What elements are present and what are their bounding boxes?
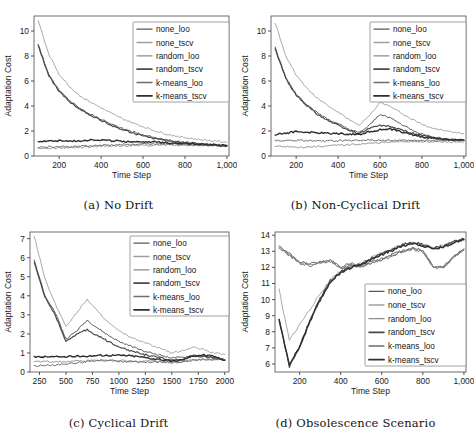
legend-label-none_tscv: none_tscv (393, 39, 431, 48)
y-tick-label: 13 (261, 246, 271, 256)
legend-label-k-means_tscv: k-means_tscv (393, 92, 444, 101)
y-tick-label: 10 (257, 26, 267, 36)
y-tick-label: 8 (265, 327, 270, 337)
plot-area-c: 0123456725050075010001250150017502000non… (0, 218, 237, 408)
series-line-random_loo (275, 141, 464, 148)
y-tick-label: 11 (261, 278, 270, 288)
legend-label-random_tscv: random_tscv (393, 65, 441, 74)
y-tick-label: 2 (24, 126, 29, 136)
legend-label-k-means_tscv: k-means_tscv (156, 92, 207, 101)
y-tick-label: 6 (20, 253, 25, 263)
x-tick-label: 1,000 (216, 160, 237, 170)
x-tick-label: 600 (375, 376, 389, 386)
figure-grid: 02468102004006008001,000none_loonone_tsc… (0, 0, 474, 436)
panel-caption-a: (a) No Drift (0, 198, 237, 212)
y-tick-label: 4 (20, 291, 25, 301)
x-tick-label: 200 (289, 160, 303, 170)
legend-label-none_tscv: none_tscv (153, 253, 191, 262)
y-tick-label: 10 (261, 295, 271, 305)
y-tick-label: 0 (24, 151, 29, 161)
legend-label-random_tscv: random_tscv (156, 65, 204, 74)
plot-area-a: 02468102004006008001,000none_loonone_tsc… (0, 0, 237, 190)
legend-label-k-means_tscv: k-means_tscv (388, 356, 439, 365)
y-tick-label: 2 (20, 329, 25, 339)
panel-caption-b: (b) Non-Cyclical Drift (237, 198, 474, 212)
x-tick-label: 1750 (189, 376, 208, 386)
x-axis-label: Time Step (271, 170, 466, 180)
y-axis-label: Adaptation Cost (3, 271, 13, 332)
y-tick-label: 2 (261, 126, 266, 136)
x-tick-label: 200 (52, 160, 66, 170)
legend-label-random_loo: random_loo (153, 266, 197, 275)
legend-label-random_loo: random_loo (388, 315, 432, 324)
chart-panel-c: 0123456725050075010001250150017502000non… (0, 218, 237, 436)
x-tick-label: 1250 (136, 376, 155, 386)
y-tick-label: 8 (261, 51, 266, 61)
legend-label-none_tscv: none_tscv (156, 39, 194, 48)
legend-label-k-means_loo: k-means_loo (153, 293, 200, 302)
x-axis-label: Time Step (30, 386, 229, 396)
x-axis-label: Time Step (34, 170, 229, 180)
y-tick-label: 9 (265, 311, 270, 321)
legend-label-k-means_loo: k-means_loo (156, 79, 203, 88)
panel-caption-d: (d) Obsolescence Scenario (237, 416, 474, 430)
legend-label-none_loo: none_loo (153, 239, 187, 248)
x-tick-label: 600 (373, 160, 387, 170)
y-tick-label: 0 (261, 151, 266, 161)
y-tick-label: 10 (20, 26, 30, 36)
x-tick-label: 600 (136, 160, 150, 170)
y-tick-label: 6 (265, 359, 270, 369)
y-tick-label: 14 (261, 230, 271, 240)
y-tick-label: 12 (261, 262, 271, 272)
legend-label-random_tscv: random_tscv (153, 279, 201, 288)
x-tick-label: 750 (85, 376, 99, 386)
y-tick-label: 1 (20, 348, 25, 358)
y-tick-label: 4 (261, 101, 266, 111)
y-tick-label: 0 (20, 367, 25, 377)
x-tick-label: 800 (415, 160, 429, 170)
x-tick-label: 250 (33, 376, 47, 386)
y-axis-label: Adaptation Cost (3, 55, 13, 116)
legend-label-random_tscv: random_tscv (388, 328, 436, 337)
x-tick-label: 800 (416, 376, 430, 386)
x-tick-label: 400 (331, 160, 345, 170)
x-axis-label: Time Step (275, 386, 466, 396)
y-tick-label: 7 (265, 343, 270, 353)
chart-panel-d: 678910111213142004006008001,000none_loon… (237, 218, 474, 436)
x-tick-label: 1500 (163, 376, 182, 386)
y-tick-label: 3 (20, 310, 25, 320)
y-tick-label: 8 (24, 51, 29, 61)
y-axis-label: Adaptation Cost (240, 271, 250, 332)
legend-label-k-means_loo: k-means_loo (388, 342, 435, 351)
chart-panel-a: 02468102004006008001,000none_loonone_tsc… (0, 0, 237, 218)
x-tick-label: 1000 (110, 376, 129, 386)
x-tick-label: 200 (293, 376, 307, 386)
legend-label-none_loo: none_loo (388, 287, 422, 296)
y-tick-label: 6 (261, 76, 266, 86)
legend-label-random_loo: random_loo (393, 52, 437, 61)
x-tick-label: 400 (94, 160, 108, 170)
legend-label-k-means_loo: k-means_loo (393, 79, 440, 88)
y-axis-label: Adaptation Cost (240, 55, 250, 116)
x-tick-label: 1,000 (453, 160, 474, 170)
x-tick-label: 800 (178, 160, 192, 170)
y-tick-label: 4 (24, 101, 29, 111)
legend-label-random_loo: random_loo (156, 52, 200, 61)
series-line-k-means_loo (34, 359, 225, 367)
y-tick-label: 7 (20, 234, 25, 244)
x-tick-label: 400 (334, 376, 348, 386)
legend-label-none_loo: none_loo (156, 25, 190, 34)
legend-label-none_loo: none_loo (393, 25, 427, 34)
panel-caption-c: (c) Cyclical Drift (0, 416, 237, 430)
x-tick-label: 500 (59, 376, 73, 386)
y-tick-label: 5 (20, 272, 25, 282)
legend-label-none_tscv: none_tscv (388, 301, 426, 310)
y-tick-label: 6 (24, 76, 29, 86)
plot-area-b: 02468102004006008001,000none_loonone_tsc… (237, 0, 474, 190)
plot-area-d: 678910111213142004006008001,000none_loon… (237, 218, 474, 408)
chart-panel-b: 02468102004006008001,000none_loonone_tsc… (237, 0, 474, 218)
legend-label-k-means_tscv: k-means_tscv (153, 306, 204, 315)
x-tick-label: 1,000 (453, 376, 474, 386)
series-line-k-means_tscv (275, 128, 464, 140)
x-tick-label: 2000 (215, 376, 234, 386)
